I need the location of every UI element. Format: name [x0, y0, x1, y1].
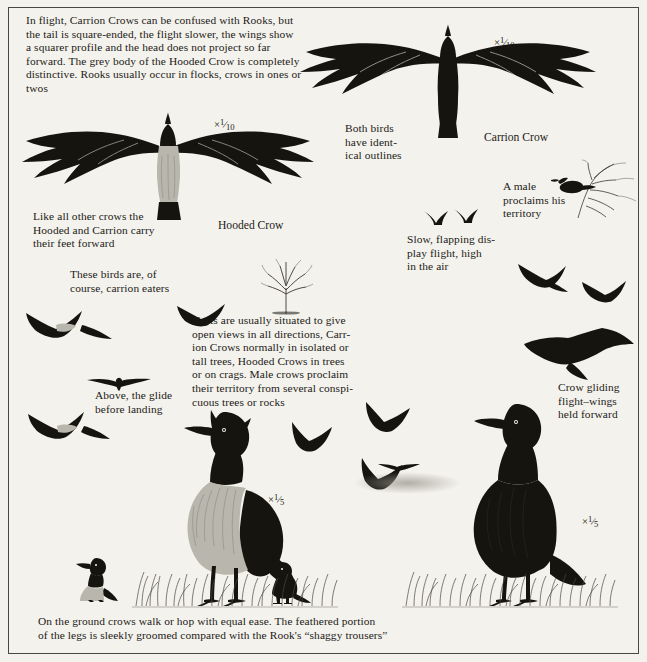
- hooded-crow-flying-left: [24, 305, 114, 351]
- scale-denominator: 10: [506, 40, 515, 50]
- caption-both-birds: Both birds have ident- ical outlines: [345, 122, 435, 163]
- bare-tree-illustration: [260, 258, 314, 314]
- scale-denominator: 5: [280, 497, 284, 507]
- intro-paragraph: In flight, Carrion Crows can be confused…: [26, 14, 326, 96]
- caption-carrion-eaters: These birds are, of course, carrion eate…: [70, 268, 230, 295]
- display-flight-crows-illustration: [420, 205, 480, 231]
- scale-hooded-flight: ×1/10: [214, 119, 233, 130]
- scale-hooded-standing: ×1/5: [268, 494, 287, 505]
- ground-grass-left: [130, 548, 340, 608]
- caption-display-flight: Slow, flapping dis- play flight, high in…: [407, 233, 517, 274]
- caption-feet-forward: Like all other crows the Hooded and Carr…: [33, 210, 208, 251]
- caption-bottom: On the ground crows walk or hop with equ…: [38, 614, 508, 643]
- small-hooded-crow-ground: [74, 556, 120, 602]
- illustration-page: In flight, Carrion Crows can be confused…: [0, 0, 647, 662]
- flying-crow-col-a: [362, 400, 418, 436]
- caption-male-proclaims: A male proclaims his territory: [503, 180, 583, 221]
- flying-crow-upper-right: [516, 262, 582, 298]
- carrion-crow-flight-illustration: [288, 22, 608, 142]
- hooded-crow-flight-illustration: [18, 112, 318, 222]
- caption-nests: Nests are usually situated to give open …: [192, 314, 370, 409]
- flying-crow-mid-right: [578, 278, 636, 310]
- scale-carrion-standing: ×1/5: [582, 516, 601, 527]
- ground-grass-right: [400, 548, 620, 608]
- scale-carrion-flight: ×1/10: [494, 37, 513, 48]
- label-hooded-crow: Hooded Crow: [218, 219, 283, 233]
- scale-denominator: 5: [594, 519, 598, 529]
- scale-denominator: 10: [226, 122, 235, 132]
- label-carrion-crow: Carrion Crow: [484, 131, 548, 145]
